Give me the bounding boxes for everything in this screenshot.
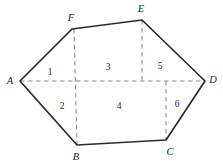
- hexagon-outline: [20, 20, 205, 145]
- figure-canvas: [0, 0, 223, 167]
- dashed-construction-lines: [20, 20, 205, 145]
- vertex-label-c: C: [166, 147, 173, 158]
- region-label-6: 6: [175, 100, 180, 110]
- vertical-F-B: [74, 29, 77, 145]
- vertex-label-a: A: [7, 76, 14, 87]
- vertex-label-f: F: [68, 13, 75, 24]
- geometry-figure: ABCDEF 123456: [0, 0, 223, 167]
- hexagon-path: [20, 20, 205, 145]
- region-label-5: 5: [158, 62, 163, 72]
- vertex-label-d: D: [209, 75, 217, 86]
- vertex-label-b: B: [73, 152, 80, 163]
- region-label-3: 3: [106, 63, 111, 73]
- vertex-label-e: E: [138, 4, 145, 15]
- region-label-2: 2: [60, 102, 65, 112]
- region-label-1: 1: [48, 68, 53, 78]
- region-label-4: 4: [117, 102, 122, 112]
